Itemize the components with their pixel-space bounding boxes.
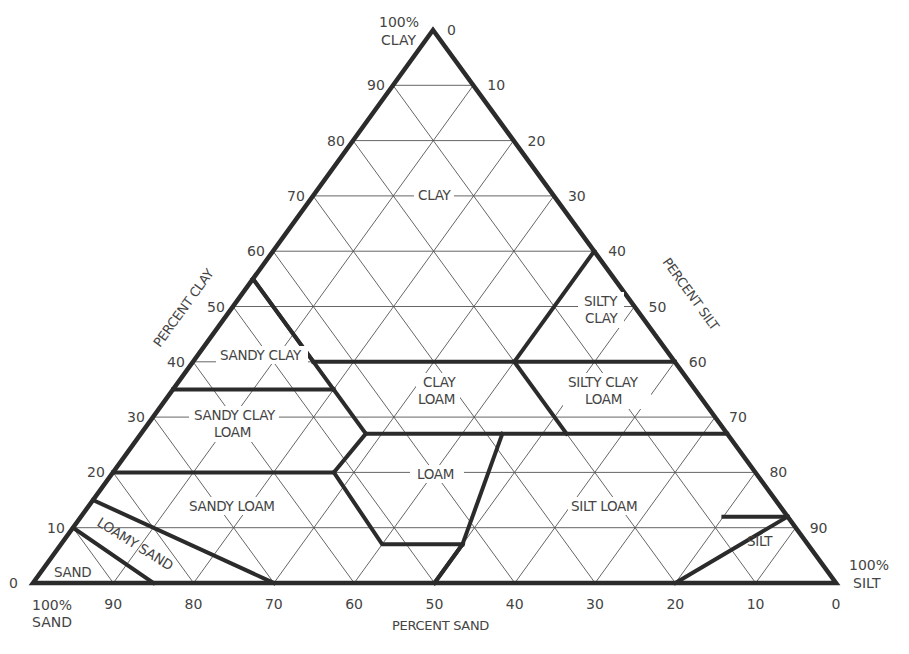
silt-apex-label-pct: 100% — [849, 557, 889, 573]
sand-apex-label-pct: 100% — [32, 597, 72, 613]
region-clay-loam-line1: CLAY — [423, 374, 457, 390]
region-sand: SAND — [54, 564, 91, 580]
region-silty-clay-loam-line1: SILTY CLAY — [568, 374, 639, 390]
clay-tick-30: 30 — [127, 409, 145, 425]
sand-tick-30: 30 — [586, 596, 604, 612]
silt-apex-label: SILT — [853, 575, 881, 591]
sand-apex-label: SAND — [32, 614, 72, 630]
sand-tick-90: 90 — [104, 596, 122, 612]
grid-lines — [73, 85, 796, 583]
region-clay-loam-line2: LOAM — [418, 391, 455, 407]
silt-tick-20: 20 — [528, 133, 546, 149]
sand-tick-70: 70 — [265, 596, 283, 612]
region-sandy-clay-loam-line1: SANDY CLAY — [194, 407, 276, 423]
clay-tick-10: 10 — [47, 520, 65, 536]
sand-tick-50: 50 — [426, 596, 444, 612]
silt-tick-10: 10 — [487, 77, 505, 93]
silt-tick-90: 90 — [810, 520, 828, 536]
silt-tick-80: 80 — [769, 464, 787, 480]
region-silt: SILT — [747, 533, 773, 549]
clay-tick-90: 90 — [367, 77, 385, 93]
silt-tick-70: 70 — [729, 409, 747, 425]
region-silty-clay-line1: SILTY — [584, 293, 618, 309]
soil-texture-triangle: 100% CLAY 100% SILT 100% SAND PERCENT CL… — [0, 0, 909, 654]
region-silt-loam: SILT LOAM — [571, 498, 637, 514]
clay-apex-label: CLAY — [381, 32, 416, 48]
sand-axis-title: PERCENT SAND — [392, 618, 489, 633]
silt-tick-50: 50 — [649, 299, 667, 315]
silt-tick-0: 0 — [447, 22, 456, 38]
silt-tick-40: 40 — [608, 243, 626, 259]
region-clay: CLAY — [418, 187, 452, 203]
sand-tick-40: 40 — [506, 596, 524, 612]
clay-tick-50: 50 — [207, 299, 225, 315]
clay-tick-60: 60 — [247, 243, 265, 259]
clay-tick-20: 20 — [87, 464, 105, 480]
clay-apex-label-pct: 100% — [379, 14, 419, 30]
sand-tick-0: 0 — [832, 596, 841, 612]
region-silty-clay-loam-line2: LOAM — [585, 391, 622, 407]
region-labels: CLAY SILTY CLAY SANDY CLAY CLAY LOAM SIL… — [54, 186, 773, 580]
region-loamy-sand: LOAMY SAND — [94, 514, 176, 573]
clay-tick-0: 0 — [9, 575, 18, 591]
sand-tick-20: 20 — [666, 596, 684, 612]
sand-tick-10: 10 — [747, 596, 765, 612]
clay-tick-40: 40 — [167, 354, 185, 370]
clay-tick-80: 80 — [327, 133, 345, 149]
region-sandy-loam: SANDY LOAM — [189, 498, 275, 514]
region-silty-clay-line2: CLAY — [585, 310, 619, 326]
region-sandy-clay-loam-line2: LOAM — [214, 424, 251, 440]
region-loam: LOAM — [417, 466, 454, 482]
clay-tick-70: 70 — [287, 188, 305, 204]
sand-tick-80: 80 — [185, 596, 203, 612]
sand-tick-60: 60 — [345, 596, 363, 612]
silt-tick-60: 60 — [689, 354, 707, 370]
silt-axis-title: PERCENT SILT — [660, 255, 723, 333]
region-sandy-clay: SANDY CLAY — [220, 347, 302, 363]
silt-tick-30: 30 — [568, 188, 586, 204]
